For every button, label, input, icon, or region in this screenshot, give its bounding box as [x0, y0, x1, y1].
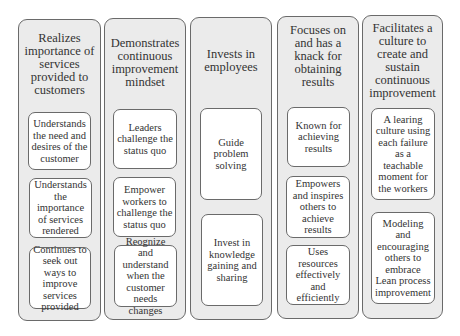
item-text: Reognize and understand when the custome… [115, 236, 176, 317]
item-text: Uses resources effectively and efficient… [287, 246, 349, 304]
column-title: Invests in employees [193, 48, 269, 74]
item-box: Empower workers to challenge the status … [113, 177, 176, 237]
item-box: Known for achieving results [287, 107, 350, 167]
item-text: Continues to seek out ways to improve se… [30, 244, 90, 313]
item-box: Uses resources effectively and efficient… [286, 245, 350, 305]
column-title: Focuses on and has a knack for obtaining… [280, 24, 356, 89]
item-text: Invest in knowledge gaining and sharing [202, 237, 262, 283]
item-text: Empowers and inspires others to achieve … [287, 178, 349, 236]
column-culture: Facilitates a culture to create and sust… [362, 15, 443, 319]
item-text: Empower workers to challenge the status … [114, 184, 175, 230]
item-box: Empowers and inspires others to achieve … [286, 176, 350, 238]
column-title: Facilitates a culture to create and sust… [365, 22, 440, 100]
item-box: Modeling and encouraging others to embra… [371, 212, 435, 304]
item-box: Understands the importance of services r… [29, 178, 92, 238]
item-box: Continues to seek out ways to improve se… [29, 247, 91, 309]
column-title: Demonstrates continuous improvement mind… [107, 37, 183, 89]
column-title: Realizes importance of services provided… [21, 32, 98, 97]
item-text: Understands the need and desires of the … [29, 118, 90, 164]
item-box: Guide problem solving [200, 108, 262, 200]
item-box: Leaders challenge the status quo [113, 109, 177, 169]
column-invests-employees: Invests in employees Guide problem solvi… [190, 17, 272, 320]
item-text: Understands the importance of services r… [30, 179, 91, 237]
column-customer-services: Realizes importance of services provided… [18, 19, 101, 321]
item-box: Reognize and understand when the custome… [114, 245, 177, 307]
column-obtaining-results: Focuses on and has a knack for obtaining… [277, 16, 359, 319]
item-text: Guide problem solving [201, 137, 261, 172]
item-text: Known for achieving results [288, 120, 349, 155]
item-box: Understands the need and desires of the … [28, 112, 91, 170]
item-box: A learing culture using each failure as … [371, 108, 435, 200]
item-box: Invest in knowledge gaining and sharing [201, 214, 263, 306]
item-text: A learing culture using each failure as … [372, 114, 434, 195]
column-continuous-improvement: Demonstrates continuous improvement mind… [104, 18, 186, 320]
item-text: Modeling and encouraging others to embra… [372, 218, 434, 299]
item-text: Leaders challenge the status quo [114, 122, 176, 157]
